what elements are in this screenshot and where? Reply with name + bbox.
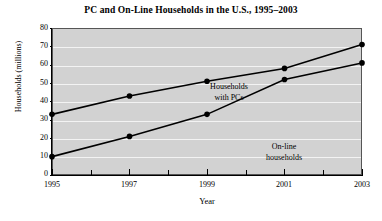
y-tick-label-80: 80 bbox=[32, 24, 48, 32]
annotation-online-households: On-line households bbox=[245, 142, 323, 163]
x-tick-label-2003: 2003 bbox=[342, 180, 382, 189]
data-point bbox=[127, 134, 133, 140]
y-tick-label-30: 30 bbox=[32, 115, 48, 123]
y-axis-title: Households (millions) bbox=[14, 17, 23, 137]
x-tick-mark-2000 bbox=[246, 170, 247, 175]
y-tick-label-50: 50 bbox=[32, 79, 48, 87]
data-point bbox=[282, 77, 288, 83]
data-point bbox=[127, 93, 133, 99]
annotation-pc-line1: Households bbox=[210, 82, 248, 91]
data-point bbox=[282, 66, 288, 72]
x-axis-title: Year bbox=[52, 196, 362, 206]
chart-title: PC and On-Line Households in the U.S., 1… bbox=[0, 4, 382, 16]
x-tick-mark-1999 bbox=[207, 169, 208, 175]
x-tick-mark-2001 bbox=[284, 169, 285, 175]
annotation-households-with-pcs: Households with PCs bbox=[190, 82, 268, 103]
y-tick-label-10: 10 bbox=[32, 152, 48, 160]
x-tick-mark-1997 bbox=[129, 169, 130, 175]
x-tick-label-1995: 1995 bbox=[32, 180, 72, 189]
annotation-online-line2: households bbox=[266, 153, 302, 162]
x-axis-line bbox=[51, 175, 363, 176]
x-tick-mark-1995 bbox=[52, 169, 53, 175]
x-tick-mark-1996 bbox=[91, 170, 92, 175]
data-point bbox=[204, 112, 210, 118]
x-tick-mark-2002 bbox=[323, 170, 324, 175]
y-tick-label-0: 0 bbox=[32, 170, 48, 178]
x-tick-mark-1998 bbox=[168, 170, 169, 175]
chart-figure: PC and On-Line Households in the U.S., 1… bbox=[0, 0, 382, 221]
data-point bbox=[49, 112, 55, 118]
annotation-pc-line2: with PCs bbox=[214, 93, 243, 102]
data-point bbox=[49, 154, 55, 160]
y-tick-label-20: 20 bbox=[32, 134, 48, 142]
annotation-online-line1: On-line bbox=[272, 142, 296, 151]
y-tick-label-70: 70 bbox=[32, 42, 48, 50]
x-tick-label-1997: 1997 bbox=[109, 180, 149, 189]
y-axis-tick-labels: 80 70 60 50 40 30 20 10 0 bbox=[28, 28, 48, 175]
x-tick-label-2001: 2001 bbox=[264, 180, 304, 189]
data-point bbox=[359, 42, 365, 48]
plot-area-wrapper: Households with PCs On-line households bbox=[52, 28, 362, 175]
x-tick-mark-2003 bbox=[362, 169, 363, 175]
series-markers-households-with-pcs bbox=[49, 42, 365, 117]
y-tick-label-40: 40 bbox=[32, 97, 48, 105]
y-tick-label-60: 60 bbox=[32, 60, 48, 68]
x-tick-label-1999: 1999 bbox=[187, 180, 227, 189]
data-point bbox=[359, 60, 365, 66]
